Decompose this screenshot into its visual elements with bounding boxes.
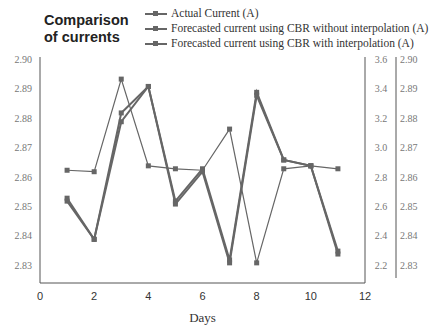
y-left-tick: 2.83 <box>15 260 33 271</box>
data-point <box>335 252 340 257</box>
y-right-inner-tick: 3.0 <box>375 142 388 153</box>
y-right-outer-tick: 2.85 <box>400 201 418 212</box>
x-tick: 12 <box>359 290 371 302</box>
x-tick: 8 <box>254 290 260 302</box>
y-right-outer-tick: 2.84 <box>400 230 418 241</box>
x-tick: 0 <box>37 290 43 302</box>
data-point <box>281 166 286 171</box>
y-right-inner-tick: 3.6 <box>375 54 388 65</box>
data-point <box>254 93 259 98</box>
data-point <box>200 169 205 174</box>
y-right-outer-tick: 2.87 <box>400 142 418 153</box>
data-point <box>335 166 340 171</box>
data-point <box>227 260 232 265</box>
y-right-inner-tick: 2.4 <box>375 230 388 241</box>
y-right-inner-tick: 2.6 <box>375 201 388 212</box>
y-right-inner-tick: 2.2 <box>375 260 388 271</box>
x-tick: 10 <box>305 290 317 302</box>
y-left-tick: 2.86 <box>15 172 33 183</box>
data-point <box>65 199 70 204</box>
data-point <box>308 163 313 168</box>
y-right-outer-tick: 2.83 <box>400 260 418 271</box>
y-right-outer-tick: 2.89 <box>400 83 418 94</box>
data-point <box>146 84 151 89</box>
y-left-tick: 2.88 <box>15 113 33 124</box>
y-left-tick: 2.84 <box>15 230 33 241</box>
y-right-inner-tick: 3.4 <box>375 83 388 94</box>
data-point <box>119 110 124 115</box>
data-point <box>65 168 70 173</box>
x-axis-label: Days <box>189 310 216 325</box>
y-left-tick: 2.90 <box>15 54 33 65</box>
x-tick: 4 <box>145 290 151 302</box>
y-left-tick: 2.89 <box>15 83 33 94</box>
y-right-inner-tick: 2.8 <box>375 172 388 183</box>
data-point <box>254 260 259 265</box>
y-right-outer-tick: 2.88 <box>400 113 418 124</box>
data-point <box>227 127 232 132</box>
data-point <box>281 157 286 162</box>
y-left-tick: 2.85 <box>15 201 33 212</box>
x-tick: 2 <box>91 290 97 302</box>
y-right-inner-tick: 3.2 <box>375 113 388 124</box>
data-point <box>119 77 124 82</box>
y-left-tick: 2.87 <box>15 142 33 153</box>
plot-area: 2.902.892.882.872.862.852.842.833.63.43.… <box>0 0 432 327</box>
data-point <box>173 202 178 207</box>
data-point <box>173 166 178 171</box>
data-point <box>92 169 97 174</box>
data-point <box>146 163 151 168</box>
x-tick: 6 <box>199 290 205 302</box>
y-right-outer-tick: 2.90 <box>400 54 418 65</box>
y-right-outer-tick: 2.86 <box>400 172 418 183</box>
data-point <box>119 119 124 124</box>
data-point <box>92 237 97 242</box>
